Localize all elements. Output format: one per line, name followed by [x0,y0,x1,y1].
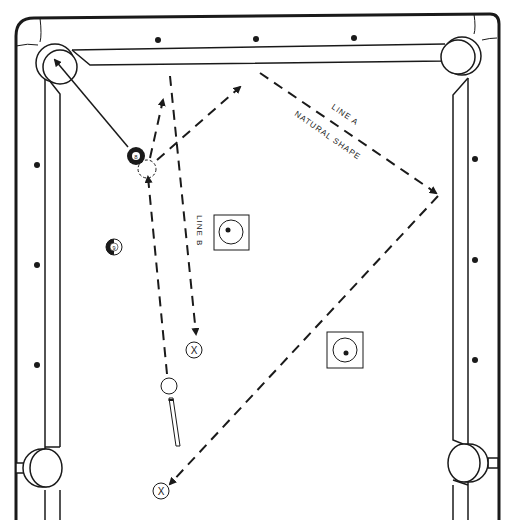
svg-text:9: 9 [112,245,115,251]
target-x-lower: X [153,483,169,499]
line-a-segment-2 [260,73,436,193]
position-zone-lower [327,332,363,368]
cue-path-to-ghost [148,177,167,374]
diamond-right-3 [472,357,478,363]
cue-ball [161,378,177,394]
ghost-ball [138,160,156,178]
svg-text:X: X [158,486,165,497]
position-zone-upper [214,215,249,250]
svg-text:X: X [191,345,198,356]
cue-stick [169,398,181,446]
nine-ball: 9 [103,238,122,257]
pool-table-diagram: LINE A NATURAL SHAPE LINE B 8 9 X X [0,0,511,520]
table-rail [16,14,499,520]
line-b-up [150,100,163,158]
line-a-segment-1 [157,87,240,160]
object-ball-path [55,60,128,147]
diamond-right-2 [472,257,478,263]
diamond-left-1 [34,162,40,168]
diamond-left-2 [34,262,40,268]
diamond-right-1 [472,156,478,162]
line-a-segment-3 [170,196,438,484]
diamond-top-2 [253,36,259,42]
diamond-top-1 [155,37,161,43]
diamond-markers [34,35,478,368]
diamond-left-3 [34,362,40,368]
eight-ball: 8 [127,147,145,165]
pocket-bottom-right [448,444,498,482]
line-b-label: LINE B [195,215,204,246]
diamond-top-3 [351,35,357,41]
pocket-top-right [441,37,481,75]
target-x-upper: X [186,342,202,358]
pocket-bottom-left [16,449,62,487]
line-b-down [170,76,196,334]
